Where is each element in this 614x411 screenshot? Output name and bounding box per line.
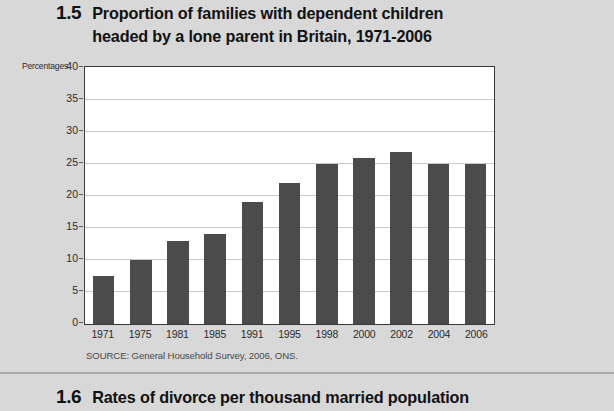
bar-slot [234,67,271,324]
y-tick-label: 5 [72,285,78,296]
source-note: SOURCE: General Household Survey, 2006, … [86,350,298,361]
y-tick-mark [79,258,83,259]
figure-title-line-1: Proportion of families with dependent ch… [92,2,443,25]
x-tick-label: 1981 [159,327,196,345]
y-tick-label: 10 [66,253,78,264]
bar-slot [345,67,382,324]
bar-slot [420,67,457,324]
bar-slot [383,67,420,324]
bar [353,158,375,324]
y-tick-label: 20 [66,189,78,200]
bar-slot [457,67,494,324]
y-tick-mark [79,290,83,291]
y-tick-label: 30 [66,125,78,136]
bar [167,241,189,324]
y-tick-label: 15 [66,221,78,232]
x-tick-label: 1971 [84,327,121,345]
y-tick-mark [79,162,83,163]
bar [242,202,264,324]
x-tick-label: 1991 [233,327,270,345]
x-tick-label: 1995 [271,327,308,345]
figure-number: 1.5 [56,2,81,24]
bar-slot [85,67,122,324]
y-tick-mark [79,226,83,227]
y-tick-label: 25 [66,157,78,168]
section-divider [0,372,614,374]
bar-slot [122,67,159,324]
x-axis: 1971197519811985199119951998200020022004… [84,327,495,345]
bar-slot [159,67,196,324]
bar [204,234,226,324]
x-tick-label: 2006 [458,327,495,345]
bar-slot [271,67,308,324]
y-tick-label: 35 [66,93,78,104]
figure-1-6-title-row: 1.6 Rates of divorce per thousand marrie… [56,385,614,411]
bar-slot [197,67,234,324]
y-tick-mark [79,98,83,99]
y-tick-label: 0 [72,317,78,328]
bar [130,260,152,324]
x-tick-label: 2002 [383,327,420,345]
y-tick-mark [79,66,83,67]
bar [390,152,412,324]
bar [93,276,115,324]
y-tick-mark [79,194,83,195]
bar [279,183,301,324]
bar [465,164,487,324]
bar-slot [308,67,345,324]
x-tick-label: 1975 [121,327,158,345]
next-figure-title: Rates of divorce per thousand married po… [92,385,469,409]
figure-1-5-block: 1.5 Proportion of families with dependen… [0,0,614,370]
bar [428,164,450,324]
next-figure-number: 1.6 [56,385,81,409]
y-axis: 0510152025303540 [52,58,82,333]
x-tick-label: 1998 [308,327,345,345]
chart-plot-area [84,66,495,325]
y-tick-label: 40 [66,61,78,72]
bar [316,164,338,324]
figure-title-line-2: headed by a lone parent in Britain, 1971… [92,25,443,48]
figure-title-row: 1.5 Proportion of families with dependen… [56,2,443,47]
x-tick-label: 1985 [196,327,233,345]
bar-series [85,67,494,324]
y-tick-mark [79,322,83,323]
y-tick-mark [79,130,83,131]
figure-title: Proportion of families with dependent ch… [92,2,443,47]
x-tick-label: 2000 [346,327,383,345]
x-tick-label: 2004 [420,327,457,345]
